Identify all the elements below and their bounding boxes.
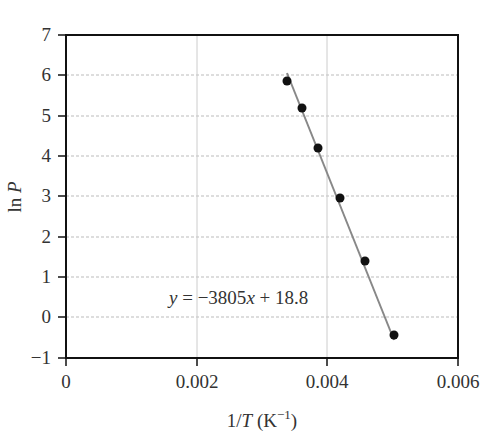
y-ticks (58, 35, 66, 358)
svg-text:6: 6 (42, 64, 52, 85)
y-tick-labels: 7 6 5 4 3 2 1 0 −1 (31, 24, 52, 368)
x-axis-label: 1/T (K−1) (227, 407, 297, 432)
svg-text:0: 0 (42, 306, 52, 327)
svg-text:3: 3 (42, 185, 52, 206)
chart: 7 6 5 4 3 2 1 0 −1 0 0.002 0.004 0.006 1… (0, 0, 487, 445)
svg-text:0.002: 0.002 (176, 371, 219, 392)
y-axis-label: ln P (4, 181, 25, 213)
svg-text:0.006: 0.006 (437, 371, 480, 392)
svg-text:4: 4 (42, 145, 52, 166)
svg-text:−1: −1 (31, 347, 51, 368)
svg-text:0.004: 0.004 (306, 371, 349, 392)
svg-text:5: 5 (42, 105, 52, 126)
x-tick-labels: 0 0.002 0.004 0.006 (61, 371, 479, 392)
x-ticks (66, 358, 458, 366)
equation-annotation: y = −3805x + 18.8 (167, 287, 308, 308)
gridlines (66, 35, 458, 358)
svg-text:1: 1 (42, 266, 52, 287)
svg-text:2: 2 (42, 226, 52, 247)
svg-text:0: 0 (61, 371, 71, 392)
svg-text:7: 7 (42, 24, 52, 45)
